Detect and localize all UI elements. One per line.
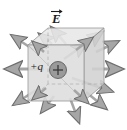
electric-field-gaussian-cube-figure: E +q: [0, 0, 127, 130]
point-charge: [50, 62, 67, 79]
electric-field-label: E: [52, 12, 61, 25]
arrow-down-mid-line: [70, 98, 79, 122]
charge-label: +q: [30, 61, 43, 72]
diagram-canvas: [0, 0, 127, 130]
